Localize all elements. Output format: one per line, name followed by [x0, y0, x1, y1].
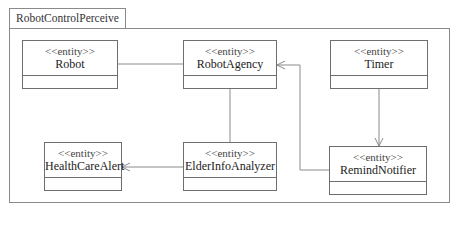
- class-robot-agency[interactable]: <<entity>> RobotAgency: [183, 40, 277, 89]
- stereotype-label: <<entity>>: [330, 151, 426, 163]
- stereotype-label: <<entity>>: [184, 45, 276, 57]
- class-health-care-alert[interactable]: <<entity>> HealthCareAlert: [44, 142, 122, 191]
- class-name: RobotAgency: [184, 57, 276, 71]
- arrow-remindnotifier-to-robotagency: [277, 65, 329, 170]
- class-robot[interactable]: <<entity>> Robot: [22, 40, 118, 89]
- stereotype-label: <<entity>>: [45, 147, 121, 159]
- stereotype-label: <<entity>>: [331, 45, 427, 57]
- stereotype-label: <<entity>>: [23, 45, 117, 57]
- class-remind-notifier[interactable]: <<entity>> RemindNotifier: [329, 146, 427, 195]
- stereotype-label: <<entity>>: [184, 147, 276, 159]
- class-name: HealthCareAlert: [45, 159, 121, 173]
- class-timer[interactable]: <<entity>> Timer: [330, 40, 428, 89]
- class-name: RemindNotifier: [330, 163, 426, 177]
- class-name: Robot: [23, 57, 117, 71]
- class-elder-info-analyzer[interactable]: <<entity>> ElderInfoAnalyzer: [183, 142, 277, 191]
- class-name: ElderInfoAnalyzer: [184, 159, 276, 173]
- class-name: Timer: [331, 57, 427, 71]
